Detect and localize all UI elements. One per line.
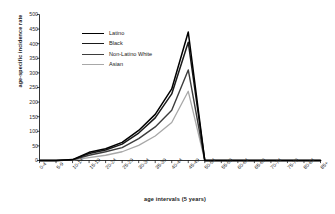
legend-label: Non-Latino White [109, 51, 152, 58]
series-line-asian [40, 91, 321, 160]
legend-label: Black [109, 40, 123, 47]
x-axis-title: age intervals (5 years) [95, 196, 255, 202]
legend-swatch [82, 64, 104, 65]
legend-swatch [82, 33, 104, 34]
legend-swatch [82, 43, 104, 44]
legend-item: Latino [82, 28, 152, 39]
legend-swatch [82, 54, 104, 55]
series-line-non-latino-white [40, 70, 321, 161]
legend-label: Latino [109, 30, 124, 37]
legend-label: Asian [109, 61, 123, 68]
legend-item: Non-Latino White [82, 49, 152, 60]
plot-area [0, 0, 335, 214]
legend-item: Asian [82, 60, 152, 71]
chart-figure: age-specific incidence rate 050100150200… [0, 0, 335, 214]
legend-item: Black [82, 39, 152, 50]
chart-legend: LatinoBlackNon-Latino WhiteAsian [82, 28, 152, 70]
